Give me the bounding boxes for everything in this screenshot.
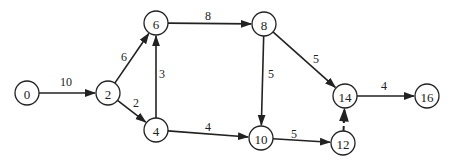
edge-weight-label: 5 [291,127,297,141]
node-label: 0 [24,87,31,102]
edge-0-2: 10 [39,75,95,93]
node-6: 6 [144,11,168,35]
edge-weight-label: 4 [205,120,211,134]
node-12: 12 [331,131,355,155]
nodes-layer: 0264810121416 [15,11,439,155]
node-16: 16 [415,84,439,108]
edge-4-6: 3 [156,36,165,118]
node-14: 14 [333,84,357,108]
edge-12-14 [344,109,345,131]
edge-weight-label: 2 [133,96,139,110]
node-2: 2 [96,81,120,105]
node-label: 2 [105,87,112,102]
arrow [273,139,330,142]
edge-2-4: 2 [118,96,146,122]
dummy-arrow [344,109,345,131]
edge-8-10: 5 [261,36,274,125]
node-label: 6 [153,17,160,32]
node-label: 8 [261,18,268,33]
network-diagram-canvas: 10623845554 0264810121416 [0,0,451,162]
network-diagram: 10623845554 0264810121416 [0,0,451,162]
node-label: 10 [255,132,268,147]
node-label: 4 [153,124,160,139]
arrow [168,23,251,24]
arrow [115,34,149,83]
edge-10-12: 5 [273,127,330,142]
edge-weight-label: 5 [268,67,274,81]
edge-6-8: 8 [168,9,251,24]
edge-weight-label: 6 [121,50,127,64]
node-4: 4 [144,118,168,142]
node-0: 0 [15,81,39,105]
arrow [118,100,146,122]
edge-14-16: 4 [357,79,414,96]
arrow [261,36,263,125]
edge-2-6: 6 [115,34,149,83]
node-10: 10 [249,126,273,150]
arrow [273,32,335,87]
node-8: 8 [252,12,276,36]
node-label: 12 [337,137,350,152]
edge-weight-label: 5 [313,52,319,66]
node-label: 14 [339,90,353,105]
edge-weight-label: 10 [60,75,72,89]
edges-layer: 10623845554 [39,9,414,142]
edge-weight-label: 8 [205,9,211,23]
edge-weight-label: 4 [381,79,387,93]
edge-4-10: 4 [168,120,248,137]
edge-8-14: 5 [273,32,335,87]
edge-weight-label: 3 [159,67,165,81]
node-label: 16 [421,90,435,105]
